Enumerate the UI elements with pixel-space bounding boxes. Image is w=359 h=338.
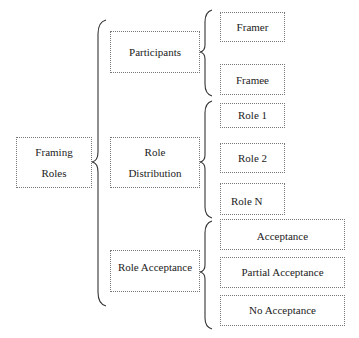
leaf-acceptance: Acceptance (220, 219, 345, 250)
leaf-label: Framer (237, 17, 269, 38)
leaf-role-n: Role N (220, 183, 285, 215)
role-distribution-brace (200, 101, 212, 218)
participants-brace (200, 10, 212, 96)
category-label-line1: Role (145, 142, 166, 163)
leaf-framer: Framer (220, 12, 285, 42)
category-label: Role Acceptance (118, 257, 192, 278)
leaf-label: Partial Acceptance (241, 262, 323, 283)
category-role-distribution: Role Distribution (110, 137, 200, 188)
root-brace (92, 20, 106, 306)
leaf-label: Acceptance (257, 226, 308, 247)
leaf-label: Role N (231, 191, 262, 212)
leaf-label: No Acceptance (249, 300, 316, 321)
leaf-partial-acceptance: Partial Acceptance (220, 257, 345, 288)
leaf-label: Role 1 (238, 105, 267, 126)
role-acceptance-brace (200, 221, 212, 329)
leaf-label: Role 2 (238, 148, 267, 169)
leaf-role-1: Role 1 (220, 103, 285, 128)
category-label-line2: Distribution (128, 163, 181, 184)
root-label-line1: Framing (35, 142, 72, 163)
category-label: Participants (129, 42, 181, 63)
root-node-framing-roles: Framing Roles (16, 137, 92, 188)
leaf-role-2: Role 2 (220, 143, 285, 173)
leaf-framee: Framee (220, 64, 285, 95)
leaf-no-acceptance: No Acceptance (220, 295, 345, 326)
category-role-acceptance: Role Acceptance (110, 250, 200, 292)
root-label-line2: Roles (41, 163, 66, 184)
leaf-label: Framee (236, 70, 269, 91)
category-participants: Participants (110, 31, 200, 73)
